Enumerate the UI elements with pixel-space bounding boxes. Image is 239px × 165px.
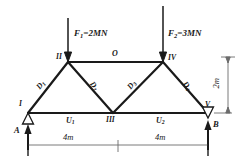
dimension-horizontal xyxy=(28,136,208,156)
dimension-label-height: 2m xyxy=(212,78,221,88)
member-D1 xyxy=(28,62,68,113)
dimension-label-span-left: 4m xyxy=(63,133,73,142)
force-F2-arrowhead xyxy=(159,52,166,62)
member-label-O: O xyxy=(112,50,118,58)
node-label-II: II xyxy=(56,53,62,61)
dim-v-arrow-bottom xyxy=(226,107,230,113)
force-label-F1: F1=2MN xyxy=(74,29,107,39)
force-label-F2: F2=3MN xyxy=(168,29,201,39)
node-label-V: V xyxy=(205,101,210,109)
support-A-triangle xyxy=(23,113,34,124)
dim-v-arrow-top xyxy=(226,57,230,63)
member-label-U1: U1 xyxy=(66,117,75,126)
member-D3 xyxy=(113,62,163,113)
node-label-IV: IV xyxy=(168,54,176,62)
support-B-reaction-arrowhead xyxy=(204,120,211,130)
member-label-U2: U2 xyxy=(156,117,165,126)
support-label-A: A xyxy=(14,126,20,135)
support-label-B: B xyxy=(213,120,219,129)
truss-diagram: F1=2MN F2=3MN I II III IV V D1 D2 D3 D4 … xyxy=(0,0,239,165)
node-label-I: I xyxy=(19,100,22,108)
node-label-III: III xyxy=(106,116,115,124)
support-A-reaction-arrowhead xyxy=(24,124,31,134)
dimension-label-span-right: 4m xyxy=(155,133,165,142)
force-F1-arrowhead xyxy=(64,52,71,62)
